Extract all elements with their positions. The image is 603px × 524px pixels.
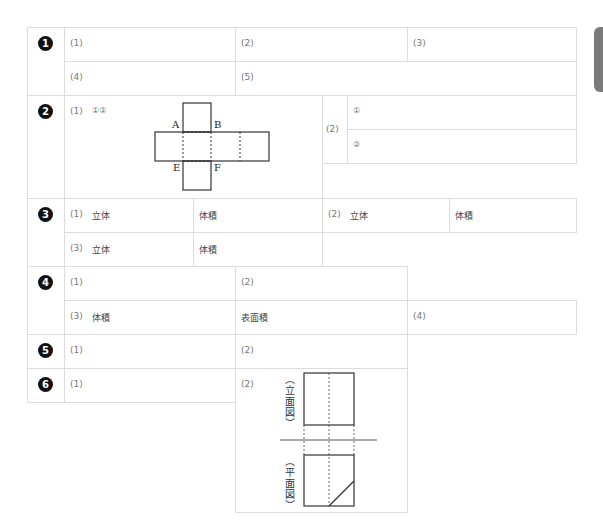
- s4-q2-cell: [235, 266, 408, 301]
- s3-q2-solid-cell: [322, 198, 450, 233]
- s1-q5-label: (5): [241, 72, 254, 82]
- net-label-b: B: [214, 119, 221, 130]
- section-2-number: 2: [38, 104, 53, 119]
- net-label-a: A: [172, 119, 179, 130]
- s5-q2-label: (2): [241, 345, 254, 355]
- s1-q3-label: (3): [413, 38, 426, 48]
- plan-view-label: （平面図）: [281, 456, 296, 511]
- s4-q3-volume-label: 体積: [92, 311, 110, 324]
- s3-q3-solid-label: 立体: [92, 243, 110, 256]
- s4-q4-label: (4): [413, 311, 426, 321]
- s3-q3-solid-cell: [64, 232, 194, 267]
- s2-q2-b-label: ②: [353, 140, 360, 149]
- front-view-label: （立面図）: [281, 374, 296, 429]
- s3-q3-volume-label: 体積: [199, 243, 217, 256]
- s4-q1-cell: [64, 266, 236, 301]
- s6-q2-label: (2): [241, 379, 254, 389]
- s4-q3-surface-label: 表面積: [241, 311, 268, 324]
- s3-q2-solid-label: 立体: [350, 209, 368, 222]
- s3-q1-solid-label: 立体: [92, 209, 110, 222]
- side-tab: [594, 27, 603, 92]
- section-5-number: 5: [38, 343, 53, 358]
- s1-q2-label: (2): [241, 38, 254, 48]
- s4-q3-label: (3): [70, 311, 83, 321]
- s4-q3-volume-cell: [64, 300, 236, 335]
- s3-q2-volume-label: 体積: [455, 209, 473, 222]
- section-3-number: 3: [38, 207, 53, 222]
- s4-q2-label: (2): [241, 277, 254, 287]
- s6-q2-cell: [235, 368, 408, 513]
- s5-q2-cell: [235, 334, 408, 369]
- s1-q5-cell: [235, 61, 577, 96]
- s2-q2-a-label: ①: [353, 106, 360, 115]
- s5-q1-cell: [64, 334, 236, 369]
- s4-q4-cell: [407, 300, 577, 335]
- s5-q1-label: (1): [70, 345, 83, 355]
- s1-q1-cell: [64, 27, 236, 62]
- section-1-number: 1: [38, 36, 53, 51]
- s1-q4-label: (4): [70, 72, 83, 82]
- net-label-f: F: [214, 162, 221, 173]
- net-label-e: E: [173, 162, 180, 173]
- s6-q1-label: (1): [70, 379, 83, 389]
- s3-q1-label: (1): [70, 209, 83, 219]
- s2-q1-label: (1): [70, 106, 83, 116]
- s1-q3-cell: [407, 27, 577, 62]
- s3-q1-volume-label: 体積: [199, 209, 217, 222]
- section-4-number: 4: [38, 275, 53, 290]
- s1-q4-cell: [64, 61, 236, 96]
- s4-q1-label: (1): [70, 277, 83, 287]
- s6-q1-cell: [64, 368, 236, 403]
- s2-q1-sub-label: ①②: [92, 106, 106, 115]
- s3-q1-solid-cell: [64, 198, 194, 233]
- section-6-number: 6: [38, 377, 53, 392]
- s3-q3-label: (3): [70, 243, 83, 253]
- s1-q2-cell: [235, 27, 408, 62]
- s1-q1-label: (1): [70, 38, 83, 48]
- s2-q2-label: (2): [326, 124, 339, 134]
- s2-q2-a-cell: [347, 95, 577, 130]
- s2-q2-b-cell: [347, 129, 577, 164]
- s3-q2-label: (2): [328, 209, 341, 219]
